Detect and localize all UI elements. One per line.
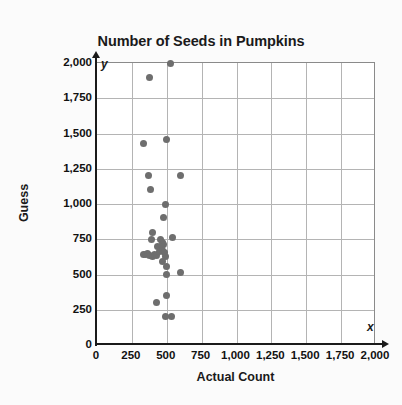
data-point (167, 60, 174, 67)
data-point (163, 271, 170, 278)
y-tick-label: 1,500 (34, 127, 92, 139)
data-point (146, 74, 153, 81)
gridline-horizontal (97, 275, 374, 276)
x-axis-line (96, 343, 384, 345)
gridline-vertical (271, 63, 272, 343)
data-point (168, 313, 175, 320)
data-point (162, 201, 169, 208)
data-point (163, 263, 170, 270)
gridline-horizontal (97, 310, 374, 311)
y-tick-label: 1,000 (34, 197, 92, 209)
y-axis-title: Guess (17, 163, 31, 243)
x-tick-label: 1,250 (256, 349, 285, 361)
gridline-vertical (132, 63, 133, 343)
gridline-vertical (306, 63, 307, 343)
y-tick-label: 1,250 (34, 162, 92, 174)
x-tick-label: 2,000 (361, 349, 390, 361)
gridline-vertical (202, 63, 203, 343)
gridline-vertical (237, 63, 238, 343)
gridline-vertical (341, 63, 342, 343)
gridline-horizontal (97, 134, 374, 135)
scatter-plot-figure: Number of Seeds in Pumpkins y x 02505007… (0, 0, 402, 405)
gridline-horizontal (97, 98, 374, 99)
y-tick-label: 500 (34, 268, 92, 280)
x-tick-label: 750 (191, 349, 210, 361)
x-tick-label: 1,750 (326, 349, 355, 361)
gridline-horizontal (97, 239, 374, 240)
x-axis-variable-letter: x (367, 320, 374, 334)
x-tick-label: 1,500 (291, 349, 320, 361)
data-point (145, 172, 152, 179)
x-tick-label: 500 (156, 349, 175, 361)
data-point (160, 214, 167, 221)
data-point (148, 236, 155, 243)
plot-area (96, 62, 375, 344)
data-point (177, 172, 184, 179)
x-tick-label: 0 (93, 349, 99, 361)
x-axis-arrow-icon (382, 340, 389, 348)
data-point (163, 136, 170, 143)
data-point (177, 269, 184, 276)
y-axis-tick-labels: 02505007501,0001,2501,5001,7502,000 (28, 0, 92, 405)
data-point (140, 140, 147, 147)
x-tick-label: 250 (121, 349, 140, 361)
data-point (147, 186, 154, 193)
x-axis-title: Actual Count (96, 370, 375, 384)
gridline-horizontal (97, 169, 374, 170)
y-tick-label: 250 (34, 303, 92, 315)
y-tick-label: 2,000 (34, 56, 92, 68)
y-axis-arrow-icon (92, 51, 100, 58)
data-point (163, 292, 170, 299)
data-point (169, 234, 176, 241)
data-point (149, 229, 156, 236)
y-axis-variable-letter: y (101, 57, 108, 71)
y-tick-label: 750 (34, 232, 92, 244)
x-tick-label: 1,000 (221, 349, 250, 361)
y-tick-label: 1,750 (34, 91, 92, 103)
y-axis-line (95, 57, 97, 346)
y-tick-label: 0 (34, 338, 92, 350)
gridline-horizontal (97, 204, 374, 205)
data-point (153, 299, 160, 306)
